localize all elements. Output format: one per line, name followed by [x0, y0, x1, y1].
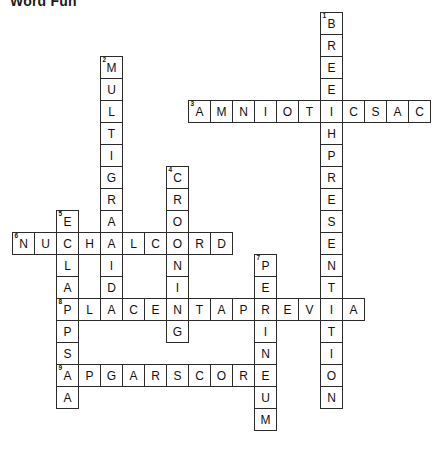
grid-cell[interactable]: R: [188, 232, 211, 255]
grid-cell[interactable]: E: [320, 188, 343, 211]
grid-cell[interactable]: S: [364, 100, 387, 123]
grid-cell[interactable]: I: [320, 100, 343, 123]
grid-cell[interactable]: A: [56, 386, 79, 409]
grid-cell[interactable]: R: [254, 298, 277, 321]
grid-cell[interactable]: O: [166, 232, 189, 255]
cell-letter: N: [233, 106, 254, 118]
grid-cell[interactable]: P: [56, 320, 79, 343]
grid-cell[interactable]: G: [100, 364, 123, 387]
grid-cell[interactable]: A: [210, 298, 233, 321]
grid-cell[interactable]: I: [254, 100, 277, 123]
grid-cell[interactable]: G: [100, 166, 123, 189]
grid-cell[interactable]: O: [166, 210, 189, 233]
grid-cell[interactable]: R: [100, 188, 123, 211]
grid-cell[interactable]: L: [78, 298, 101, 321]
grid-cell[interactable]: A: [100, 298, 123, 321]
grid-cell[interactable]: C: [408, 100, 431, 123]
cell-letter: O: [321, 370, 342, 382]
grid-cell[interactable]: T: [188, 298, 211, 321]
grid-cell[interactable]: O: [210, 364, 233, 387]
grid-cell[interactable]: S: [320, 210, 343, 233]
grid-cell[interactable]: 3A: [188, 100, 211, 123]
grid-cell[interactable]: D: [210, 232, 233, 255]
grid-cell[interactable]: R: [144, 364, 167, 387]
cell-letter: M: [101, 62, 122, 74]
grid-cell[interactable]: N: [232, 100, 255, 123]
grid-cell[interactable]: S: [166, 364, 189, 387]
grid-cell[interactable]: 1B: [320, 12, 343, 35]
grid-cell[interactable]: T: [320, 276, 343, 299]
grid-cell[interactable]: C: [56, 232, 79, 255]
grid-cell[interactable]: I: [320, 342, 343, 365]
cell-letter: H: [321, 128, 342, 140]
grid-cell[interactable]: H: [78, 232, 101, 255]
cell-letter: I: [101, 150, 122, 162]
grid-cell[interactable]: E: [254, 276, 277, 299]
grid-cell[interactable]: E: [320, 78, 343, 101]
grid-cell[interactable]: 4C: [166, 166, 189, 189]
grid-cell[interactable]: D: [100, 276, 123, 299]
grid-cell[interactable]: N: [254, 342, 277, 365]
grid-cell[interactable]: 8P: [56, 298, 79, 321]
cell-letter: L: [123, 238, 144, 250]
cell-letter: R: [167, 194, 188, 206]
grid-cell[interactable]: E: [144, 298, 167, 321]
grid-cell[interactable]: M: [254, 408, 277, 431]
grid-cell[interactable]: E: [276, 298, 299, 321]
grid-cell[interactable]: P: [232, 298, 255, 321]
grid-cell[interactable]: U: [254, 386, 277, 409]
grid-cell[interactable]: 7P: [254, 254, 277, 277]
grid-cell[interactable]: L: [100, 100, 123, 123]
grid-cell[interactable]: P: [320, 144, 343, 167]
grid-cell[interactable]: E: [320, 56, 343, 79]
grid-cell[interactable]: T: [298, 100, 321, 123]
grid-cell[interactable]: 6N: [12, 232, 35, 255]
grid-cell[interactable]: V: [298, 298, 321, 321]
grid-cell[interactable]: M: [210, 100, 233, 123]
grid-cell[interactable]: L: [56, 254, 79, 277]
grid-cell[interactable]: C: [188, 364, 211, 387]
grid-cell[interactable]: R: [320, 34, 343, 57]
grid-cell[interactable]: 2M: [100, 56, 123, 79]
grid-cell[interactable]: C: [122, 298, 145, 321]
grid-cell[interactable]: N: [320, 386, 343, 409]
grid-cell[interactable]: R: [166, 188, 189, 211]
grid-cell[interactable]: P: [78, 364, 101, 387]
grid-cell[interactable]: C: [144, 232, 167, 255]
grid-cell[interactable]: 5E: [56, 210, 79, 233]
grid-cell[interactable]: L: [122, 232, 145, 255]
grid-cell[interactable]: T: [100, 122, 123, 145]
cell-letter: L: [101, 106, 122, 118]
grid-cell[interactable]: U: [100, 78, 123, 101]
grid-cell[interactable]: O: [276, 100, 299, 123]
grid-cell[interactable]: A: [56, 276, 79, 299]
grid-cell[interactable]: I: [254, 320, 277, 343]
grid-cell[interactable]: R: [232, 364, 255, 387]
grid-cell[interactable]: A: [122, 364, 145, 387]
crossword-grid[interactable]: 1BR2MEUEL3AMNIOTICSACTHIPG4CRRRE5EAOS6NU…: [12, 12, 432, 452]
grid-cell[interactable]: N: [166, 254, 189, 277]
grid-cell[interactable]: A: [386, 100, 409, 123]
grid-cell[interactable]: I: [100, 144, 123, 167]
grid-cell[interactable]: G: [166, 320, 189, 343]
grid-cell[interactable]: T: [320, 320, 343, 343]
grid-cell[interactable]: U: [34, 232, 57, 255]
grid-cell[interactable]: E: [320, 232, 343, 255]
grid-cell[interactable]: N: [166, 298, 189, 321]
grid-cell[interactable]: N: [320, 254, 343, 277]
grid-cell[interactable]: C: [342, 100, 365, 123]
grid-cell[interactable]: E: [254, 364, 277, 387]
grid-cell[interactable]: 9A: [56, 364, 79, 387]
grid-cell[interactable]: S: [56, 342, 79, 365]
grid-cell[interactable]: A: [100, 232, 123, 255]
grid-cell[interactable]: A: [100, 210, 123, 233]
grid-cell[interactable]: H: [320, 122, 343, 145]
grid-cell[interactable]: I: [320, 298, 343, 321]
grid-cell[interactable]: I: [166, 276, 189, 299]
grid-cell[interactable]: I: [100, 254, 123, 277]
grid-cell[interactable]: R: [320, 166, 343, 189]
cell-letter: P: [255, 260, 276, 272]
cell-letter: T: [189, 304, 210, 316]
grid-cell[interactable]: O: [320, 364, 343, 387]
grid-cell[interactable]: A: [342, 298, 365, 321]
